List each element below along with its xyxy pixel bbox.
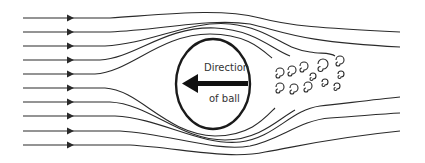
ball-label-of-ball: of ball bbox=[209, 93, 240, 104]
arrowhead-icon bbox=[67, 43, 74, 50]
swirl-icon bbox=[318, 59, 328, 72]
swirl-icon bbox=[304, 82, 312, 92]
swirl-icon bbox=[336, 56, 344, 66]
arrowhead-icon bbox=[67, 99, 74, 106]
swirl-icon bbox=[288, 66, 296, 76]
swirl-icon bbox=[310, 73, 316, 81]
swirl-icon bbox=[338, 71, 344, 79]
flow-arrowheads bbox=[67, 15, 74, 149]
ball-label-direction: Direction bbox=[204, 62, 249, 73]
swirl-icon bbox=[300, 62, 308, 72]
arrowhead-icon bbox=[67, 71, 74, 78]
arrowhead-icon bbox=[67, 15, 74, 22]
wake-swirls bbox=[276, 56, 344, 94]
streamline-7 bbox=[23, 102, 295, 140]
streamline-4 bbox=[23, 28, 290, 60]
arrowhead-icon bbox=[67, 85, 74, 92]
arrowhead-icon bbox=[67, 57, 74, 64]
streamline-3 bbox=[23, 24, 335, 56]
swirl-icon bbox=[290, 84, 298, 94]
swirl-icon bbox=[334, 83, 340, 91]
streamline-10 bbox=[23, 131, 400, 155]
airflow-diagram bbox=[0, 0, 425, 163]
swirl-icon bbox=[276, 83, 284, 93]
arrowhead-icon bbox=[67, 29, 74, 36]
arrowhead-icon bbox=[67, 113, 74, 120]
arrowhead-icon bbox=[67, 128, 74, 135]
swirl-icon bbox=[322, 79, 328, 87]
swirl-icon bbox=[276, 68, 284, 78]
arrowhead-icon bbox=[67, 142, 74, 149]
